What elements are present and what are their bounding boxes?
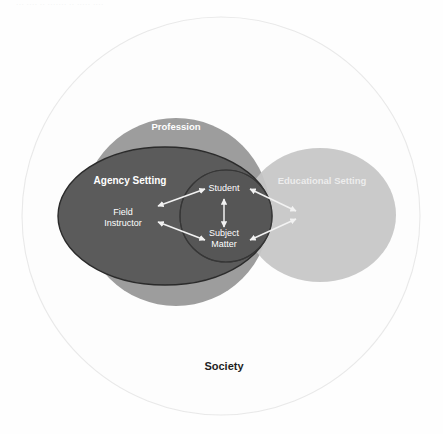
diagram-canvas: ··· ···· ·· ······· ·· ····· ····	[0, 0, 443, 434]
profession-label: Profession	[151, 121, 200, 132]
node-label-field-instructor-line1: Field	[113, 207, 133, 217]
society-label: Society	[204, 360, 244, 372]
venn-diagram: Profession Agency Setting Educational Se…	[0, 0, 443, 434]
agency-setting-label: Agency Setting	[94, 175, 167, 186]
node-label-student: Student	[208, 183, 240, 193]
node-label-field-instructor-line2: Instructor	[104, 218, 142, 228]
node-label-subject-matter-line2: Matter	[211, 239, 237, 249]
node-label-subject-matter-line1: Subject	[209, 228, 240, 238]
educational-setting-label: Educational Setting	[278, 175, 367, 186]
